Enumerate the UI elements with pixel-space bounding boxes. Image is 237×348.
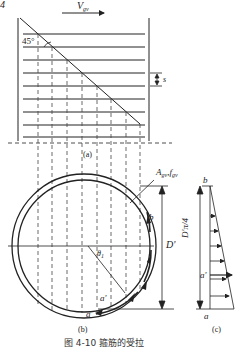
panel-b-label: (b) <box>78 326 87 334</box>
reinforcement-label: Agv,fgv <box>156 168 178 178</box>
angle-label-45: 45° <box>22 37 35 46</box>
panel-c-point-a-prime: a' <box>200 271 206 280</box>
panel-c-height-label: D'π/4 <box>181 218 190 238</box>
panel-a-label: (a) <box>83 151 92 159</box>
panel-c-point-b: b <box>203 176 208 185</box>
theta-label: θ1 <box>97 250 104 259</box>
panel-c-point-a: a <box>204 312 209 321</box>
panel-c-label: (c) <box>212 326 221 334</box>
theta-subscript: 1 <box>101 253 104 259</box>
strength-subscript: gv <box>172 172 178 178</box>
panel-c-distribution <box>196 186 234 309</box>
panel-c-arrows <box>210 216 232 296</box>
figure-caption: 图 4-10 箍筋的受拉 <box>64 339 144 348</box>
radius-line <box>88 246 125 293</box>
stirrup-lines <box>23 34 145 137</box>
point-b-label: b <box>149 213 154 222</box>
velocity-subscript: gv <box>83 6 89 12</box>
velocity-label: Vgv <box>77 1 89 12</box>
projection-lines <box>38 34 140 313</box>
spacing-label: s <box>163 76 166 84</box>
point-a-prime-label: a' <box>100 294 106 303</box>
point-a-label: a <box>86 310 91 319</box>
corner-mark: 4 <box>0 0 5 10</box>
spacing-dimension <box>150 73 162 86</box>
leader-line <box>130 180 154 203</box>
diameter-label: D' <box>166 240 175 250</box>
